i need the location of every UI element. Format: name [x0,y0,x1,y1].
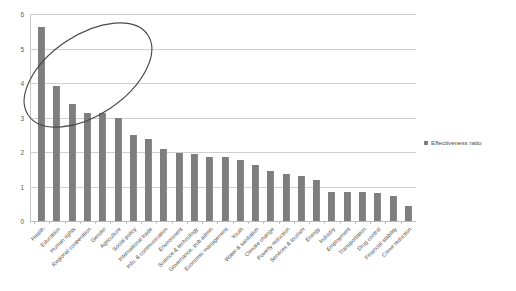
bar-slot [80,14,95,221]
cat-slot: Human rights [65,224,80,290]
y-tick-label: 4 [20,80,24,87]
bar-slot [279,14,294,221]
cat-slot: Health [34,224,49,290]
bar-slot [217,14,232,221]
bar [38,27,45,221]
bar [206,157,213,222]
bar [84,113,91,221]
bar-slot [126,14,141,221]
cat-slot: Poverty reduction [279,224,294,290]
y-axis-labels: 6543210 [0,0,28,291]
bar-slot [309,14,324,221]
y-tick-label: 3 [20,114,24,121]
bar [252,165,259,221]
y-tick-label: 5 [20,45,24,52]
bar-slot [263,14,278,221]
bar [237,160,244,221]
bar [298,176,305,221]
cat-slot: Services & tourism [294,224,309,290]
bar-slot [34,14,49,221]
bar [222,157,229,222]
bar-slot [248,14,263,221]
bar-slot [355,14,370,221]
bar [176,153,183,221]
y-tick-label: 1 [20,183,24,190]
bar-slot [65,14,80,221]
chart-container: 6543210 HealthEducationHuman rightsRegio… [0,0,516,291]
bar [374,193,381,221]
bar-slot [233,14,248,221]
bar [267,171,274,221]
bar-slot [385,14,400,221]
bar-slot [294,14,309,221]
bar [283,174,290,221]
bar [328,192,335,221]
bar-series [30,14,416,221]
bar [191,154,198,221]
bar-slot [370,14,385,221]
legend-swatch-icon [424,141,428,145]
bar [160,149,167,221]
bar-slot [156,14,171,221]
y-tick-label: 6 [20,11,24,18]
bar [405,206,412,221]
bar [145,139,152,221]
bar [53,86,60,221]
bar-slot [49,14,64,221]
bar [359,192,366,221]
bar-slot [202,14,217,221]
bar-slot [401,14,416,221]
cat-slot: International trade [141,224,156,290]
bar-slot [95,14,110,221]
legend-label: Effectiveness ratio [431,139,481,146]
y-tick-label: 2 [20,149,24,156]
bar [69,104,76,221]
bar [344,192,351,221]
bar [130,135,137,221]
bar-slot [340,14,355,221]
bar [115,118,122,221]
bar-slot [110,14,125,221]
cat-slot: Employment [340,224,355,290]
x-axis-labels: HealthEducationHuman rightsRegional coop… [30,224,416,290]
cat-slot: Financial stability [385,224,400,290]
bar [390,196,397,221]
cat-slot: Crime reduction [401,224,416,290]
bar-slot [187,14,202,221]
bar-slot [172,14,187,221]
bar-slot [324,14,339,221]
chart-legend: Effectiveness ratio [424,139,481,146]
bar-slot [141,14,156,221]
bar [99,113,106,221]
plot-area [30,14,416,221]
bar [313,180,320,221]
y-tick-label: 0 [20,218,24,225]
